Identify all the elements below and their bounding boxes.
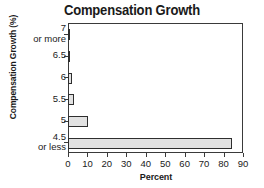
x-tick-mark — [243, 153, 244, 157]
bar-row — [69, 111, 88, 133]
x-tick-mark — [224, 153, 225, 157]
x-tick-mark — [68, 153, 69, 157]
bar-row — [69, 24, 70, 46]
bar — [68, 73, 72, 84]
x-tick-mark — [185, 153, 186, 157]
x-tick-label: 90 — [231, 158, 255, 169]
bar-row — [69, 46, 70, 68]
x-axis-title: Percent — [68, 172, 244, 182]
x-tick-mark — [87, 153, 88, 157]
bar-row — [69, 67, 72, 89]
compensation-growth-bar-chart: Compensation Growth Compensation Growth … — [0, 0, 264, 188]
bar — [68, 138, 231, 149]
chart-title: Compensation Growth — [9, 2, 255, 18]
x-tick-mark — [126, 153, 127, 157]
bar — [68, 29, 70, 40]
x-tick-mark — [146, 153, 147, 157]
x-tick-mark — [165, 153, 166, 157]
bar-row — [69, 132, 232, 154]
bar-row — [69, 89, 74, 111]
y-axis-tick-marks — [0, 23, 68, 153]
x-tick-mark — [107, 153, 108, 157]
bar — [68, 51, 70, 62]
x-tick-mark — [204, 153, 205, 157]
x-axis-tick-labels: 0102030405060708090 — [68, 158, 244, 171]
plot-area — [68, 23, 243, 153]
bar — [68, 94, 74, 105]
bar — [68, 116, 87, 127]
